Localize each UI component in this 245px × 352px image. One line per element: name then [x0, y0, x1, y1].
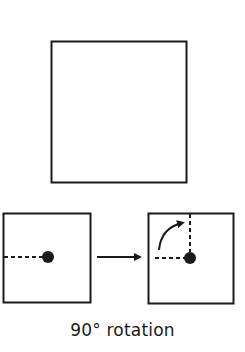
diagram-caption: 90° rotation	[0, 320, 245, 340]
before-pivot-dot	[42, 251, 54, 263]
large-square	[52, 42, 187, 183]
rotation-curved-arrow-icon	[159, 223, 182, 250]
after-rotation-figure	[149, 214, 234, 304]
before-rotation-figure	[4, 214, 91, 303]
rotation-diagram	[0, 0, 245, 352]
after-pivot-dot	[184, 252, 196, 264]
